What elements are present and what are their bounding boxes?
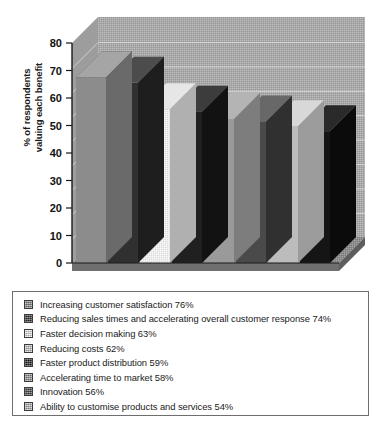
y-tick-labels: 0 10 20 30 40 50 60 70 80 [50,37,62,269]
y-tick-30: 30 [50,175,62,187]
legend-list: Increasing customer satisfaction 76% Red… [13,292,368,414]
legend-swatch-icon [24,402,33,411]
legend-swatch-icon [24,300,33,309]
legend-label: Faster decision making 63% [40,328,156,339]
y-tick-70: 70 [50,65,62,77]
legend-swatch-icon [24,358,33,367]
legend-swatch-icon [24,344,33,353]
legend-label: Innovation 56% [40,386,104,397]
y-tick-50: 50 [50,120,62,132]
y-axis-title-line-2: valuing each benefit [32,18,44,198]
legend-label: Ability to customise products and servic… [40,401,233,412]
legend-item-0[interactable]: Increasing customer satisfaction 76% [13,297,368,312]
legend-item-4[interactable]: Faster product distribution 59% [13,355,368,370]
legend-item-7[interactable]: Ability to customise products and servic… [13,399,368,414]
legend-item-6[interactable]: Innovation 56% [13,385,368,400]
legend-swatch-icon [24,329,33,338]
y-tick-0: 0 [56,257,62,269]
chart-legend: Increasing customer satisfaction 76% Red… [12,291,369,416]
legend-swatch-icon [24,373,33,382]
legend-item-5[interactable]: Accelerating time to market 58% [13,370,368,385]
legend-label: Reducing sales times and accelerating ov… [40,313,331,324]
bar-1-front [76,52,132,264]
legend-item-1[interactable]: Reducing sales times and accelerating ov… [13,312,368,327]
legend-item-3[interactable]: Reducing costs 62% [13,341,368,356]
y-tick-60: 60 [50,92,62,104]
bars-front-pair [76,52,164,264]
legend-label: Faster product distribution 59% [40,357,168,368]
y-tick-80: 80 [50,37,62,49]
legend-label: Accelerating time to market 58% [40,372,173,383]
y-tick-20: 20 [50,202,62,214]
legend-label: Increasing customer satisfaction 76% [40,299,193,310]
legend-swatch-icon [24,387,33,396]
legend-item-2[interactable]: Faster decision making 63% [13,326,368,341]
y-axis-title-line-1: % of respondents [21,18,33,198]
chart-container: % of respondents valuing each benefit [0,0,383,285]
legend-label: Reducing costs 62% [40,343,125,354]
bar-chart-3d: 0 10 20 30 40 50 60 70 80 [0,0,383,285]
legend-swatch-icon [24,314,33,323]
y-axis-title: % of respondents valuing each benefit [21,18,44,198]
y-tick-40: 40 [50,147,62,159]
y-tick-10: 10 [50,230,62,242]
